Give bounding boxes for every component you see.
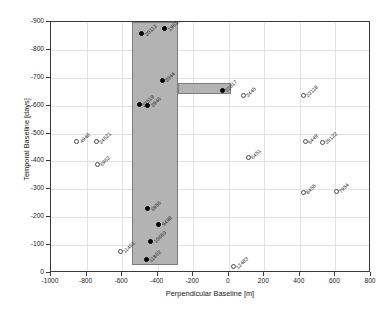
- x-tick-mark: [121, 272, 122, 276]
- x-tick-mark: [228, 272, 229, 276]
- y-axis-label: Temporal Baseline [days]: [22, 70, 31, 210]
- x-tick-label: -400: [137, 277, 177, 284]
- y-tick-mark: [46, 188, 50, 189]
- data-point-label: 12483: [235, 256, 249, 270]
- x-tick-mark: [50, 272, 51, 276]
- y-tick-label: 0: [6, 268, 44, 275]
- gridline-vertical: [300, 22, 301, 271]
- gridline-horizontal: [51, 78, 369, 79]
- x-tick-mark: [299, 272, 300, 276]
- gridline-vertical: [229, 22, 230, 271]
- gridline-horizontal: [51, 245, 369, 246]
- x-tick-label: 200: [243, 277, 283, 284]
- x-tick-mark: [192, 272, 193, 276]
- gridline-horizontal: [51, 106, 369, 107]
- x-tick-label: 400: [279, 277, 319, 284]
- main-selection-box: [132, 22, 178, 265]
- x-tick-label: 800: [350, 277, 387, 284]
- data-point-label: 23118: [306, 85, 320, 99]
- y-tick-label: -200: [6, 212, 44, 219]
- y-tick-label: -100: [6, 240, 44, 247]
- x-tick-label: -1000: [30, 277, 70, 284]
- y-tick-mark: [46, 272, 50, 273]
- y-tick-mark: [46, 77, 50, 78]
- y-tick-mark: [46, 105, 50, 106]
- y-tick-label: -900: [6, 17, 44, 24]
- gridline-vertical: [264, 22, 265, 271]
- data-point-label: 6451: [250, 149, 262, 161]
- plot-area: 2011219611204423519394622817695694981066…: [50, 21, 370, 272]
- gridline-horizontal: [51, 189, 369, 190]
- gridline-vertical: [122, 22, 123, 271]
- x-tick-label: -600: [101, 277, 141, 284]
- y-tick-mark: [46, 160, 50, 161]
- gridline-horizontal: [51, 50, 369, 51]
- y-tick-mark: [46, 244, 50, 245]
- x-tick-label: -800: [66, 277, 106, 284]
- x-axis-label: Perpendicular Baseline [m]: [50, 289, 370, 298]
- y-tick-mark: [46, 216, 50, 217]
- x-tick-mark: [263, 272, 264, 276]
- x-tick-label: 0: [208, 277, 248, 284]
- y-tick-label: -800: [6, 45, 44, 52]
- y-tick-mark: [46, 21, 50, 22]
- x-tick-label: 600: [314, 277, 354, 284]
- y-tick-mark: [46, 133, 50, 134]
- x-tick-mark: [157, 272, 158, 276]
- x-tick-label: -200: [172, 277, 212, 284]
- gridline-vertical: [335, 22, 336, 271]
- x-tick-mark: [86, 272, 87, 276]
- x-tick-mark: [334, 272, 335, 276]
- data-point-label: 5449: [307, 133, 319, 145]
- x-tick-mark: [370, 272, 371, 276]
- gridline-horizontal: [51, 134, 369, 135]
- data-point-label: 22817: [224, 80, 238, 94]
- y-tick-mark: [46, 49, 50, 50]
- scatter-plot-figure: 2011219611204423519394622817695694981066…: [0, 0, 387, 311]
- gridline-vertical: [193, 22, 194, 271]
- gridline-vertical: [87, 22, 88, 271]
- data-point-label: 3445: [245, 87, 257, 99]
- gridline-horizontal: [51, 217, 369, 218]
